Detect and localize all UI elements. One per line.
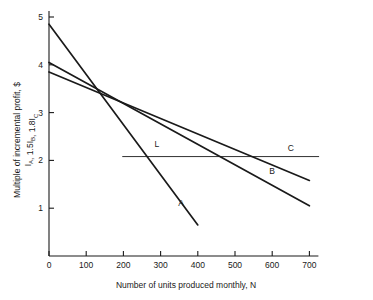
x-axis-title: Number of units produced monthly, N: [116, 280, 256, 290]
y-tick-label: 3: [38, 108, 43, 118]
y-tick-label: 2: [38, 155, 43, 165]
curve-label-c: C: [288, 143, 294, 153]
y-tick-label: 1: [38, 203, 43, 213]
y-tick-label: 4: [38, 60, 43, 70]
curve-label-a: A: [178, 198, 184, 208]
chart-figure: 0100200300400500600700 12345 ABCL Number…: [0, 0, 373, 300]
x-tick-label: 400: [191, 260, 205, 270]
y-axis-title-line1: Multiple of incremental profit, $: [12, 82, 22, 198]
chart-background: [0, 0, 373, 300]
x-tick-label: 700: [302, 260, 316, 270]
y-tick-label: 5: [38, 12, 43, 22]
curve-label-b: B: [269, 166, 275, 176]
x-tick-label: 0: [47, 260, 52, 270]
incremental-profit-line-chart: 0100200300400500600700 12345 ABCL Number…: [0, 0, 373, 300]
x-tick-label: 500: [228, 260, 242, 270]
x-tick-label: 200: [116, 260, 130, 270]
x-tick-label: 100: [79, 260, 93, 270]
x-tick-label: 600: [265, 260, 279, 270]
x-tick-label: 300: [154, 260, 168, 270]
curve-label-l: L: [155, 139, 160, 149]
